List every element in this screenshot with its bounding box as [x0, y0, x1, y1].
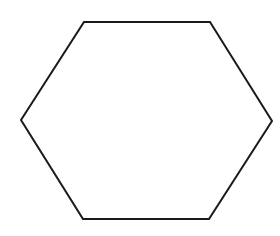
hexagon-shape	[21, 22, 272, 219]
diagram-canvas	[0, 0, 280, 236]
hexagon-figure	[0, 0, 280, 236]
